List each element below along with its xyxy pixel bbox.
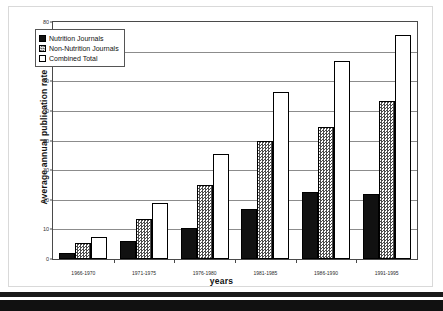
legend-swatch-nutrition bbox=[39, 35, 46, 42]
bar-nonnutrition[interactable] bbox=[197, 185, 213, 259]
bar-nonnutrition[interactable] bbox=[257, 141, 273, 260]
y-tick-label: 80 bbox=[43, 19, 49, 25]
bar-nutrition[interactable] bbox=[241, 209, 257, 259]
legend-item[interactable]: Nutrition Journals bbox=[39, 33, 119, 43]
bar-nonnutrition[interactable] bbox=[379, 101, 395, 259]
bar-group: 1991-1995 bbox=[356, 22, 417, 259]
bar-nonnutrition[interactable] bbox=[318, 127, 334, 259]
chart-figure: Average annual publication rate 01020304… bbox=[0, 0, 443, 311]
y-tick-label: 20 bbox=[43, 197, 49, 203]
scan-margin bbox=[0, 0, 6, 292]
legend-label: Nutrition Journals bbox=[49, 34, 103, 43]
legend-item[interactable]: Combined Total bbox=[39, 53, 119, 63]
y-tick-label: 60 bbox=[43, 78, 49, 84]
legend-label: Non-Nutrition Journals bbox=[49, 44, 119, 53]
legend-swatch-nonnutrition bbox=[39, 45, 46, 52]
y-tick-label: 10 bbox=[43, 226, 49, 232]
bar-group: 1986-1990 bbox=[296, 22, 357, 259]
bar-combined[interactable] bbox=[152, 203, 168, 259]
legend-label: Combined Total bbox=[49, 54, 98, 63]
bar-combined[interactable] bbox=[273, 92, 289, 259]
x-axis-title: years bbox=[0, 276, 443, 286]
y-tick-label: 0 bbox=[46, 256, 49, 262]
y-tick-label: 50 bbox=[43, 108, 49, 114]
bar-group: 1976-1980 bbox=[174, 22, 235, 259]
bar-nonnutrition[interactable] bbox=[136, 219, 152, 259]
bar-nutrition[interactable] bbox=[302, 192, 318, 259]
bar-combined[interactable] bbox=[334, 61, 350, 259]
bar-combined[interactable] bbox=[91, 237, 107, 259]
legend-swatch-combined bbox=[39, 55, 46, 62]
y-tick-label: 30 bbox=[43, 167, 49, 173]
bar-nonnutrition[interactable] bbox=[75, 243, 91, 259]
bar-nutrition[interactable] bbox=[181, 228, 197, 259]
bar-group: 1981-1985 bbox=[235, 22, 296, 259]
scan-artifact-bar-top bbox=[0, 292, 443, 297]
bar-combined[interactable] bbox=[213, 154, 229, 259]
bar-nutrition[interactable] bbox=[59, 253, 75, 259]
chart-legend: Nutrition JournalsNon-Nutrition Journals… bbox=[35, 29, 125, 67]
bar-nutrition[interactable] bbox=[363, 194, 379, 259]
y-tick-label: 40 bbox=[43, 138, 49, 144]
bar-combined[interactable] bbox=[395, 35, 411, 259]
legend-item[interactable]: Non-Nutrition Journals bbox=[39, 43, 119, 53]
bar-nutrition[interactable] bbox=[120, 241, 136, 259]
scan-artifact-bar-bottom bbox=[0, 300, 443, 311]
